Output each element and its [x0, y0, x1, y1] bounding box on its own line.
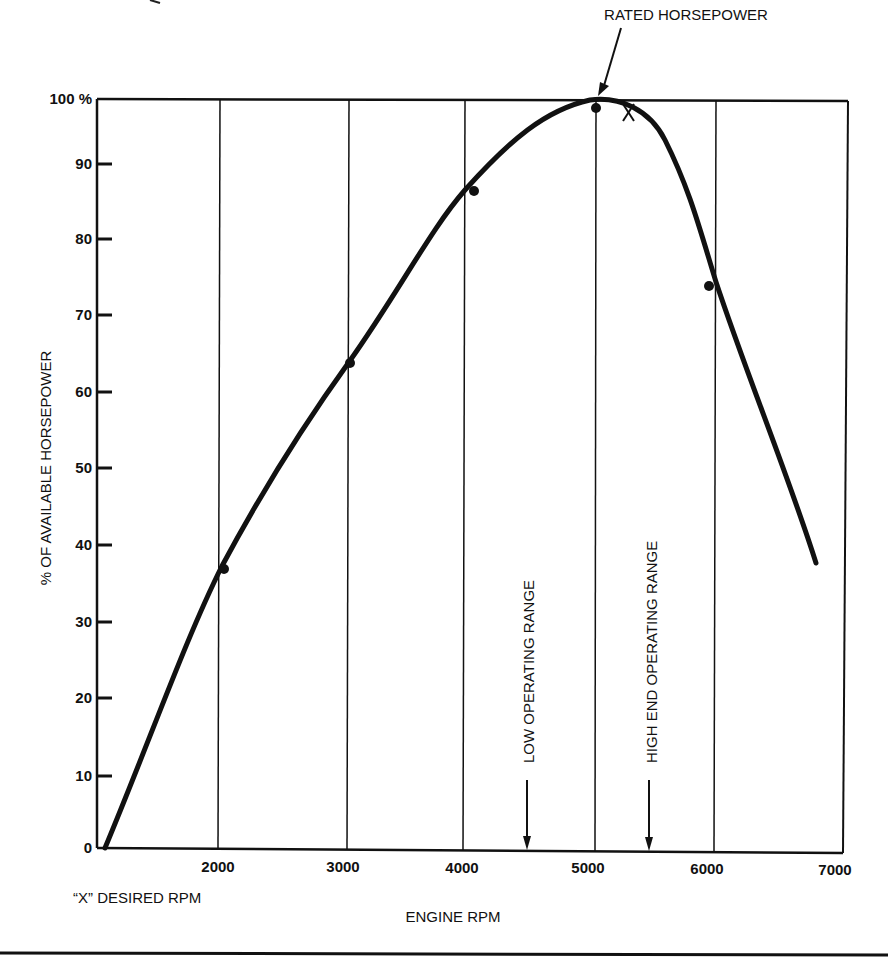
y-tick-80: 80	[75, 230, 92, 247]
high-end-operating-range-label: HIGH END OPERATING RANGE	[643, 541, 660, 763]
x-tick-7000: 7000	[818, 861, 851, 878]
horsepower-chart: 0 10 20 30 40 50 60 70 80 90 100 % 2000 …	[0, 0, 888, 962]
desired-rpm-label: “X” DESIRED RPM	[73, 889, 201, 906]
y-axis-tick-labels: 0 10 20 30 40 50 60 70 80 90 100 %	[49, 90, 92, 856]
horsepower-curve	[105, 99, 816, 848]
cropped-caption-fragment	[150, 0, 160, 3]
y-tick-30: 30	[75, 613, 92, 630]
y-tick-60: 60	[75, 383, 92, 400]
x-tick-4000: 4000	[445, 859, 478, 876]
rated-horsepower-arrow-icon	[598, 28, 621, 96]
x-tick-2000: 2000	[201, 858, 234, 875]
y-tick-90: 90	[75, 155, 92, 172]
low-range-arrow-icon	[523, 780, 531, 850]
y-axis-ticks	[97, 164, 112, 776]
y-axis-label: % OF AVAILABLE HORSEPOWER	[37, 351, 54, 586]
rated-horsepower-label: RATED HORSEPOWER	[604, 6, 768, 23]
y-tick-40: 40	[75, 536, 92, 553]
low-operating-range-label: LOW OPERATING RANGE	[520, 580, 537, 763]
y-tick-10: 10	[75, 767, 92, 784]
x-tick-6000: 6000	[690, 860, 723, 877]
y-tick-100: 100 %	[49, 90, 92, 107]
x-tick-5000: 5000	[571, 859, 604, 876]
high-range-arrow-icon	[645, 780, 653, 851]
point-2000	[219, 564, 229, 574]
point-3000	[345, 358, 355, 368]
bottom-divider	[0, 953, 888, 955]
data-points	[219, 103, 714, 574]
y-tick-70: 70	[75, 306, 92, 323]
plot-frame	[97, 99, 848, 853]
y-tick-50: 50	[75, 459, 92, 476]
x-axis-tick-labels: 2000 3000 4000 5000 6000 7000	[201, 858, 851, 878]
point-4000	[469, 186, 479, 196]
vertical-gridlines	[218, 99, 716, 852]
y-tick-20: 20	[75, 689, 92, 706]
point-6000	[704, 281, 714, 291]
x-tick-3000: 3000	[326, 858, 359, 875]
x-axis-label: ENGINE RPM	[405, 908, 500, 925]
point-5000	[591, 103, 601, 113]
y-tick-0: 0	[84, 839, 92, 856]
